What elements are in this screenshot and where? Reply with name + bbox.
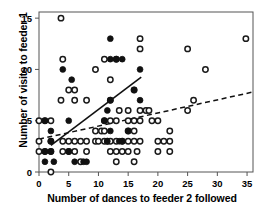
data-point-open [114, 159, 119, 164]
data-point-open [191, 98, 196, 103]
data-point-open [96, 139, 101, 144]
data-point-open [84, 98, 89, 103]
scatter-plot-figure: Number of visits to feeder 1 Number of d… [0, 0, 268, 209]
data-point-open [167, 139, 172, 144]
data-point-open [137, 118, 142, 123]
data-point-filled [107, 128, 113, 134]
data-point-open [155, 149, 160, 154]
data-point-open [146, 108, 151, 113]
data-point-open [134, 149, 139, 154]
data-point-open [66, 139, 71, 144]
data-point-open [131, 139, 136, 144]
data-point-filled [125, 128, 131, 134]
data-point-open [155, 118, 160, 123]
data-point-open [36, 139, 41, 144]
data-point-open [125, 139, 130, 144]
data-point-open [72, 149, 77, 154]
data-point-filled [51, 159, 57, 165]
x-tick-label: 10 [93, 178, 104, 189]
filled-circle-points [42, 36, 143, 165]
y-tick-label: 0 [27, 167, 32, 178]
data-point-open [66, 87, 71, 92]
data-point-filled [48, 149, 54, 155]
data-point-filled [48, 128, 54, 134]
data-point-open [185, 46, 190, 51]
data-point-filled [131, 87, 137, 93]
x-tick-label: 25 [182, 178, 193, 189]
data-point-open [185, 108, 190, 113]
data-point-open [131, 118, 136, 123]
data-point-open [117, 108, 122, 113]
data-point-filled [84, 159, 90, 165]
y-tick-label: 5 [27, 115, 33, 126]
x-axis-ticks: 05101520253035 [36, 172, 253, 189]
data-point-open [108, 77, 113, 82]
data-point-filled [137, 67, 143, 73]
x-tick-label: 5 [66, 178, 72, 189]
data-point-open [155, 139, 160, 144]
data-point-open [72, 139, 77, 144]
data-point-filled [66, 149, 72, 155]
data-point-open [203, 67, 208, 72]
data-point-filled [42, 159, 48, 165]
data-point-open [84, 139, 89, 144]
data-point-open [137, 139, 142, 144]
data-point-open [131, 128, 136, 133]
data-point-open [60, 139, 65, 144]
data-point-open [131, 159, 136, 164]
data-point-filled [104, 138, 110, 144]
data-point-open [84, 149, 89, 154]
data-point-filled [107, 36, 113, 42]
data-point-filled [107, 56, 113, 62]
data-point-filled [119, 56, 125, 62]
data-point-filled [137, 97, 143, 103]
y-tick-label: 15 [21, 13, 32, 24]
data-point-open [93, 67, 98, 72]
data-point-filled [42, 118, 48, 124]
x-tick-label: 15 [123, 178, 134, 189]
data-point-filled [119, 138, 125, 144]
data-point-open [149, 118, 154, 123]
x-tick-label: 0 [36, 178, 41, 189]
data-point-filled [104, 108, 110, 114]
data-point-open [120, 149, 125, 154]
plot-canvas: 05101520253035 051015 [0, 0, 268, 209]
data-point-open [137, 36, 142, 41]
data-point-open [78, 139, 83, 144]
dashed-regression-open [39, 92, 253, 139]
data-point-open [48, 169, 53, 174]
data-point-open [72, 98, 77, 103]
data-point-filled [69, 77, 75, 83]
data-point-open [58, 98, 63, 103]
data-point-open [125, 118, 130, 123]
data-point-filled [101, 118, 107, 124]
data-point-open [167, 149, 172, 154]
data-point-filled [60, 67, 66, 73]
data-point-open [58, 15, 63, 20]
y-tick-label: 10 [21, 64, 32, 75]
data-point-filled [66, 118, 72, 124]
data-point-filled [48, 138, 54, 144]
data-point-open [48, 118, 53, 123]
data-point-open [72, 87, 77, 92]
x-tick-label: 20 [153, 178, 164, 189]
data-point-open [102, 128, 107, 133]
data-point-open [114, 149, 119, 154]
data-point-open [167, 128, 172, 133]
x-tick-label: 35 [242, 178, 253, 189]
data-point-filled [107, 97, 113, 103]
data-point-filled [113, 56, 119, 62]
data-point-open [108, 149, 113, 154]
data-point-open [125, 108, 130, 113]
data-point-open [93, 128, 98, 133]
data-point-open [114, 118, 119, 123]
data-point-open [137, 46, 142, 51]
data-point-open [36, 149, 41, 154]
data-point-open [137, 108, 142, 113]
data-point-filled [72, 159, 78, 165]
data-point-open [108, 118, 113, 123]
data-point-filled [42, 149, 48, 155]
data-point-open [243, 36, 248, 41]
data-point-open [161, 139, 166, 144]
data-point-open [60, 149, 65, 154]
